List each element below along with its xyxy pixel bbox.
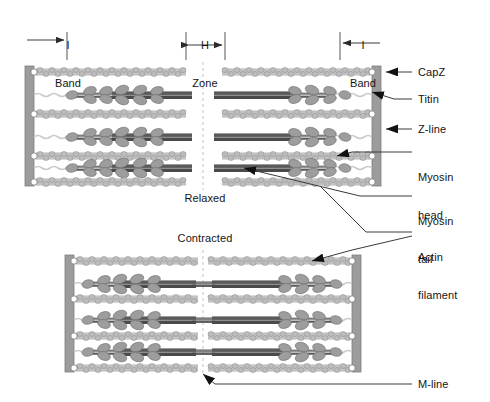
capz-icon bbox=[31, 69, 37, 75]
i-band-left-label: I Band bbox=[44, 14, 92, 114]
actin-left bbox=[36, 178, 186, 187]
capz-icon bbox=[349, 296, 355, 302]
z-line-left-contracted bbox=[65, 255, 74, 372]
sarcomere-contracted bbox=[65, 250, 361, 376]
contracted-label: Contracted bbox=[160, 232, 250, 245]
h-zone-label: H Zone bbox=[181, 14, 229, 114]
i-band-left-line1: I bbox=[44, 39, 92, 52]
actin-left bbox=[76, 364, 198, 373]
sarcomere-diagram: I Band H Zone I Band Relaxed Contracted … bbox=[0, 0, 490, 402]
actin-filament-line1: Actin bbox=[418, 251, 457, 264]
myosin-filament-row bbox=[74, 308, 352, 331]
capz-icon bbox=[369, 179, 375, 185]
relaxed-label: Relaxed bbox=[160, 192, 250, 205]
actin-right bbox=[208, 364, 351, 373]
myosin-head-line1: Myosin bbox=[418, 171, 453, 184]
capz-icon bbox=[31, 111, 37, 117]
capz-icon bbox=[71, 258, 77, 264]
actin-left bbox=[76, 332, 198, 341]
i-band-right-line2: Band bbox=[339, 77, 387, 90]
callout-mline-label: M-line bbox=[418, 378, 449, 391]
actin-left bbox=[76, 257, 198, 266]
actin-left bbox=[36, 152, 186, 161]
callout-capz-label: CapZ bbox=[418, 66, 445, 79]
myosin-head bbox=[65, 156, 351, 179]
mline-leader bbox=[203, 374, 412, 384]
capz-icon bbox=[71, 365, 77, 371]
actin-filament-row bbox=[71, 295, 355, 304]
callout-actin-filament-label: Actin filament bbox=[418, 226, 457, 326]
i-band-right-label: I Band bbox=[339, 14, 387, 114]
capz-icon bbox=[31, 153, 37, 159]
actin-leader-upper bbox=[320, 186, 412, 232]
myosin-head bbox=[81, 308, 342, 331]
h-zone-line1: H bbox=[181, 39, 229, 52]
myosin-head bbox=[81, 340, 342, 363]
capz-icon bbox=[71, 296, 77, 302]
myosin-head bbox=[81, 272, 342, 295]
actin-right bbox=[208, 332, 351, 341]
actin-filament-line2: filament bbox=[418, 289, 457, 302]
myosin-filament-row bbox=[74, 340, 352, 363]
capz-icon bbox=[349, 333, 355, 339]
z-line-right-contracted bbox=[352, 255, 361, 372]
actin-leader-lower bbox=[312, 236, 412, 261]
callout-titin-label: Titin bbox=[418, 93, 439, 106]
actin-filament-row bbox=[71, 364, 355, 373]
myosin-filament-row bbox=[74, 272, 352, 295]
actin-right bbox=[222, 178, 371, 187]
actin-right bbox=[208, 295, 351, 304]
actin-right bbox=[208, 257, 351, 266]
i-band-right-line1: I bbox=[339, 39, 387, 52]
actin-left bbox=[76, 295, 198, 304]
callout-zline-label: Z-line bbox=[418, 123, 446, 136]
i-band-left-line2: Band bbox=[44, 77, 92, 90]
capz-icon bbox=[31, 179, 37, 185]
capz-icon bbox=[71, 333, 77, 339]
z-line-left-relaxed bbox=[25, 66, 34, 186]
h-zone-line2: Zone bbox=[181, 77, 229, 90]
capz-icon bbox=[369, 153, 375, 159]
myosin-head bbox=[65, 125, 351, 148]
actin-filament-row bbox=[71, 332, 355, 341]
titin-right bbox=[332, 167, 372, 170]
capz-icon bbox=[349, 258, 355, 264]
titin-right bbox=[332, 136, 372, 139]
capz-icon bbox=[349, 365, 355, 371]
